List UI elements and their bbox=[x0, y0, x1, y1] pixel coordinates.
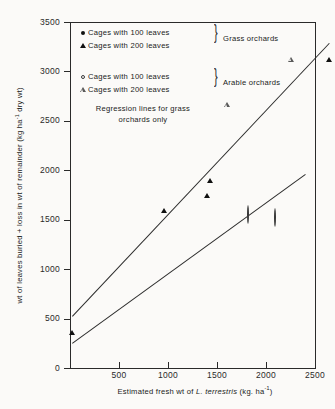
filled-triangle-icon bbox=[69, 313, 75, 335]
legend-group-label: Arable orchards bbox=[223, 78, 280, 87]
y-tick-label: 1500 bbox=[22, 215, 60, 224]
open-circle-icon bbox=[274, 208, 276, 227]
data-point-filled-triangle bbox=[326, 40, 332, 58]
curly-brace-icon: } bbox=[214, 65, 218, 88]
regression-line-grass-100-leaves bbox=[72, 174, 306, 344]
y-tick-label: 500 bbox=[22, 314, 60, 323]
y-axis-title: wt of leaves buried + loss in wt of rema… bbox=[14, 45, 25, 345]
regression-note-line1: Regression lines for grass bbox=[78, 103, 208, 114]
filled-triangle-icon bbox=[207, 161, 213, 183]
open-triangle-icon bbox=[224, 102, 230, 124]
x-tick-label: 2000 bbox=[244, 371, 288, 380]
legend-label: Cages with 200 leaves bbox=[88, 41, 170, 50]
x-tick-label: 500 bbox=[97, 371, 141, 380]
y-tick-label: 1000 bbox=[22, 265, 60, 274]
filled-triangle-icon bbox=[161, 191, 167, 213]
y-tick-label: 3000 bbox=[22, 67, 60, 76]
open-circle-icon bbox=[78, 75, 88, 79]
data-point-filled-triangle bbox=[161, 191, 167, 209]
figure: 3500300025002000150010005000 50010001500… bbox=[0, 0, 335, 409]
x-tick-label: 1000 bbox=[146, 371, 190, 380]
curly-brace-icon: } bbox=[214, 21, 218, 44]
data-point-filled-circle bbox=[205, 261, 206, 279]
x-tick-label: 2500 bbox=[293, 371, 335, 380]
legend-label: Cages with 100 leaves bbox=[88, 28, 170, 37]
open-triangle-icon bbox=[288, 57, 294, 79]
data-point-filled-triangle bbox=[207, 161, 213, 179]
legend-group-label: Grass orchards bbox=[223, 34, 278, 43]
data-point-filled-triangle bbox=[69, 313, 75, 331]
data-point-filled-circle bbox=[251, 194, 252, 212]
data-point-open-triangle bbox=[288, 57, 294, 75]
filled-circle-icon bbox=[78, 31, 88, 35]
x-tick-label: 1500 bbox=[195, 371, 239, 380]
y-tick-label: 2000 bbox=[22, 166, 60, 175]
y-tick-label: 3500 bbox=[22, 18, 60, 27]
legend: Cages with 100 leaves Cages with 200 lea… bbox=[78, 26, 268, 96]
data-point-filled-circle bbox=[184, 278, 185, 296]
plot-right-edge bbox=[315, 22, 316, 369]
legend-group-grass: Cages with 100 leaves Cages with 200 lea… bbox=[78, 26, 268, 52]
regression-note-line2: orchards only bbox=[78, 114, 208, 125]
legend-label: Cages with 200 leaves bbox=[88, 85, 170, 94]
x-axis-title: Estimated fresh wt of L. terrestris (kg.… bbox=[55, 385, 335, 396]
data-point-open-triangle bbox=[224, 102, 230, 120]
regression-note: Regression lines for grass orchards only bbox=[78, 103, 208, 125]
y-tick-label: 0 bbox=[22, 364, 60, 373]
species-name: L. terrestris bbox=[196, 387, 237, 396]
open-circle-icon bbox=[247, 205, 249, 224]
filled-triangle-icon bbox=[78, 43, 88, 48]
x-axis-line bbox=[70, 368, 316, 369]
data-point-open-circle bbox=[273, 209, 276, 227]
open-triangle-icon bbox=[78, 87, 88, 92]
data-point-filled-circle bbox=[69, 341, 70, 359]
y-tick-label: 2500 bbox=[22, 116, 60, 125]
legend-label: Cages with 100 leaves bbox=[88, 72, 170, 81]
x-tick bbox=[315, 362, 316, 368]
filled-triangle-icon bbox=[326, 40, 332, 62]
legend-group-arable: Cages with 100 leaves Cages with 200 lea… bbox=[78, 70, 268, 96]
y-tick bbox=[64, 368, 70, 369]
data-point-filled-circle bbox=[124, 284, 125, 302]
data-point-open-circle bbox=[246, 206, 249, 224]
